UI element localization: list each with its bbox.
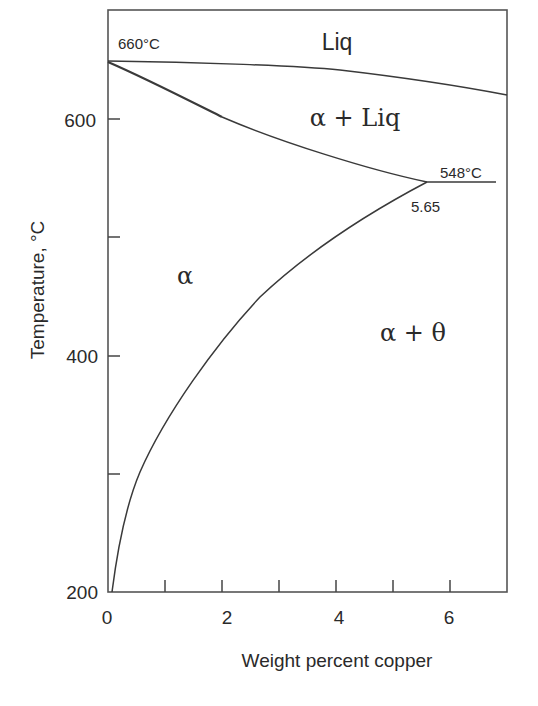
solidus-line: [108, 62, 222, 117]
region-label-alpha-liquid: α + Liq: [310, 104, 401, 132]
phase-diagram-chart: 600 400 200 0 2 4 6 Weight percent coppe…: [0, 0, 538, 706]
x-tick-label-2: 2: [222, 607, 233, 628]
y-tick-label-600: 600: [64, 110, 96, 131]
y-axis-title: Temperature, °C: [27, 221, 48, 360]
x-tick-label-4: 4: [334, 607, 345, 628]
solvus-line: [112, 182, 427, 592]
region-label-alpha: α: [177, 262, 193, 290]
eutectic-temp-label: 548°C: [440, 164, 482, 181]
x-axis-title: Weight percent copper: [242, 650, 433, 671]
region-label-liquid: Liq: [322, 29, 353, 55]
eutectic-comp-label: 5.65: [411, 198, 440, 215]
x-tick-label-6: 6: [444, 607, 455, 628]
melting-point-label: 660°C: [118, 35, 160, 52]
x-axis-ticks: [165, 580, 450, 592]
plot-frame: [108, 10, 507, 592]
x-tick-label-0: 0: [102, 607, 113, 628]
y-tick-label-400: 400: [66, 346, 98, 367]
y-tick-label-200: 200: [66, 582, 98, 603]
region-label-alpha-theta: α + θ: [380, 319, 446, 347]
y-axis-ticks: [108, 119, 120, 474]
